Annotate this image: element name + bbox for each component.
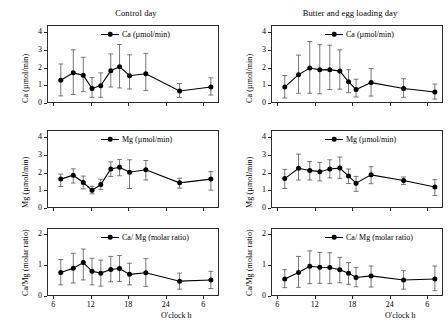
figure-canvas: Control day Butter and egg loading day 0… (0, 0, 448, 336)
series-camg-loading (0, 0, 448, 336)
